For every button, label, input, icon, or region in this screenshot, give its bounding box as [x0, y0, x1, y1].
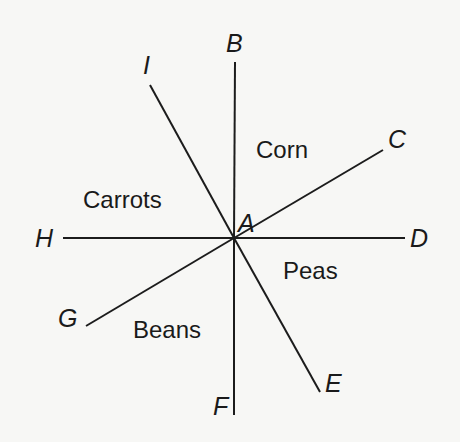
- point-label-b: B: [226, 29, 243, 57]
- region-label-corn: Corn: [256, 136, 308, 163]
- region-label-beans: Beans: [133, 316, 201, 343]
- point-label-a: A: [236, 209, 255, 237]
- point-label-e: E: [325, 369, 342, 397]
- point-label-h: H: [35, 224, 54, 252]
- ray-diagram: A B C D E F G H I Corn Carrots Peas Bean…: [0, 0, 460, 442]
- region-label-peas: Peas: [283, 257, 338, 284]
- point-label-f: F: [213, 392, 230, 420]
- point-label-c: C: [388, 125, 407, 153]
- ray-ab: [234, 62, 235, 238]
- region-label-carrots: Carrots: [83, 186, 162, 213]
- ray-ag: [86, 238, 234, 326]
- point-label-d: D: [410, 224, 428, 252]
- diagram-canvas: A B C D E F G H I Corn Carrots Peas Bean…: [0, 0, 460, 442]
- ray-ac: [234, 150, 383, 238]
- point-label-g: G: [58, 304, 77, 332]
- ray-ai: [150, 85, 234, 238]
- point-label-i: I: [143, 51, 150, 79]
